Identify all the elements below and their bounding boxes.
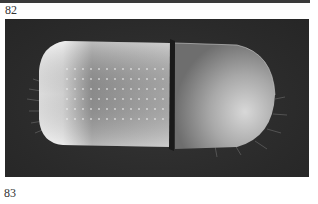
figure-82-photo-edge [0, 0, 310, 3]
beetle-image [5, 19, 309, 177]
figure-83-label: 83 [4, 187, 16, 199]
figure-82-label: 82 [5, 4, 17, 16]
figure-83-photo [5, 19, 309, 177]
